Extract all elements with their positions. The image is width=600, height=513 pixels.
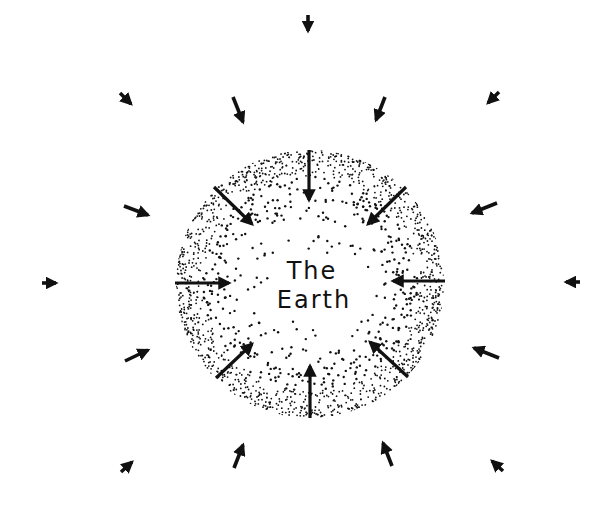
label-earth: Earth <box>277 286 351 314</box>
field-arrow-lower-left-outer-icon <box>121 462 132 472</box>
field-arrow-right-lower-icon <box>474 348 499 358</box>
field-arrow-lower-right-outer-icon <box>492 461 503 471</box>
field-arrow-lower-left-inner-icon <box>234 445 243 468</box>
field-arrow-upper-right-inner-icon <box>376 97 385 120</box>
field-arrow-upper-right-outer-icon <box>488 92 499 103</box>
field-arrow-right-upper-icon <box>472 203 497 213</box>
field-arrow-left-lower-icon <box>125 350 148 361</box>
field-arrow-upper-left-outer-icon <box>120 93 131 104</box>
field-arrow-left-upper-icon <box>124 206 148 215</box>
earth-gravity-diagram: The Earth <box>0 0 600 513</box>
field-arrow-lower-right-inner-icon <box>383 443 392 466</box>
label-the: The <box>286 257 338 285</box>
field-arrow-upper-left-inner-icon <box>233 97 243 122</box>
